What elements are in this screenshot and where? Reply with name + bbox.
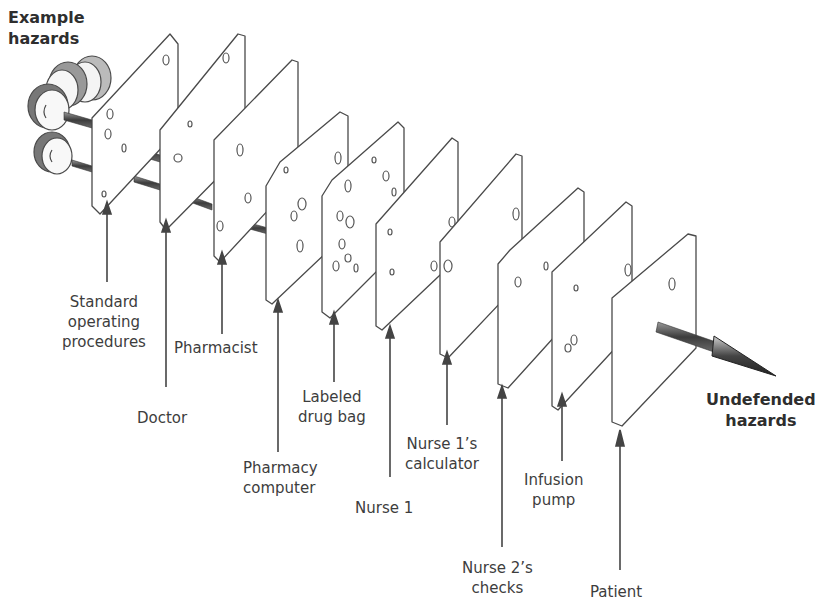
label-line: Patient	[590, 582, 642, 602]
layer-label-nurse-1-calculator: Nurse 1’s calculator	[405, 434, 479, 474]
hazard-ball-icon	[28, 84, 69, 130]
label-line: Nurse 2’s	[462, 558, 533, 578]
layer-label-doctor: Doctor	[137, 408, 187, 428]
label-line: drug bag	[298, 407, 366, 427]
label-line: computer	[243, 478, 318, 498]
label-line: procedures	[62, 332, 146, 352]
label-line: Labeled	[298, 387, 366, 407]
label-line: operating	[62, 312, 146, 332]
defense-layers	[92, 34, 696, 426]
layer-label-nurse-2-checks: Nurse 2’s checks	[462, 558, 533, 598]
label-line: Infusion	[524, 470, 583, 490]
swiss-cheese-diagram: Example hazards Undefended hazards Stand…	[0, 0, 831, 612]
layer-label-pharmacy-computer: Pharmacy computer	[243, 458, 318, 498]
undefended-hazards-line2: hazards	[706, 410, 816, 431]
label-line: pump	[524, 490, 583, 510]
label-line: calculator	[405, 454, 479, 474]
label-line: Doctor	[137, 408, 187, 428]
label-line: Pharmacy	[243, 458, 318, 478]
label-line: checks	[462, 578, 533, 598]
label-line: Pharmacist	[174, 338, 258, 358]
label-line: Nurse 1	[355, 498, 413, 518]
layer-label-nurse-1: Nurse 1	[355, 498, 413, 518]
label-line: Standard	[62, 292, 146, 312]
example-hazards-line2: hazards	[8, 28, 85, 49]
undefended-hazards-label: Undefended hazards	[706, 389, 816, 431]
example-hazards-label: Example hazards	[8, 7, 85, 49]
layer-label-infusion-pump: Infusion pump	[524, 470, 583, 510]
layer-label-patient: Patient	[590, 582, 642, 602]
layer-label-standard-operating-procedures: Standard operating procedures	[62, 292, 146, 352]
layer-label-labeled-drug-bag: Labeled drug bag	[298, 387, 366, 427]
layer-label-pharmacist: Pharmacist	[174, 338, 258, 358]
example-hazards-line1: Example	[8, 7, 85, 28]
label-line: Nurse 1’s	[405, 434, 479, 454]
undefended-hazards-line1: Undefended	[706, 389, 816, 410]
hazard-ball-icon	[34, 132, 72, 174]
